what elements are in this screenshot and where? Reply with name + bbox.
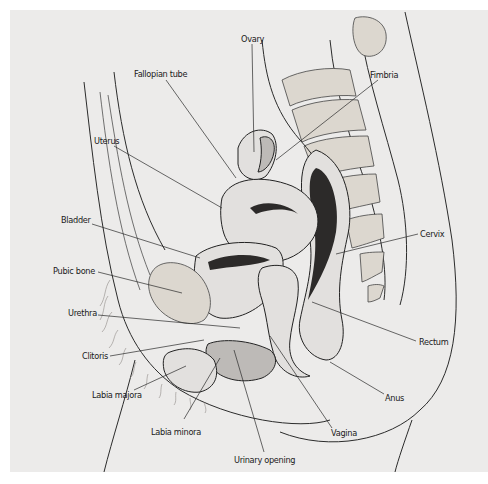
- label-rectum: Rectum: [419, 337, 449, 347]
- label-pubic-bone: Pubic bone: [53, 266, 95, 276]
- label-clitoris: Clitoris: [82, 351, 108, 361]
- label-ovary: Ovary: [241, 34, 264, 44]
- label-anus: Anus: [385, 393, 404, 403]
- label-labia-majora: Labia majora: [92, 390, 142, 400]
- label-fimbria: Fimbria: [370, 70, 398, 80]
- label-vagina: Vagina: [331, 428, 357, 438]
- label-labia-minora: Labia minora: [151, 427, 201, 437]
- label-urinary-opening: Urinary opening: [234, 455, 295, 465]
- label-urethra: Urethra: [68, 308, 97, 318]
- label-uterus: Uterus: [94, 136, 119, 146]
- anatomy-diagram: Ovary Fallopian tube Fimbria Uterus Blad…: [0, 0, 488, 484]
- label-fallopian-tube: Fallopian tube: [134, 69, 188, 79]
- label-cervix: Cervix: [420, 229, 445, 239]
- label-bladder: Bladder: [61, 215, 92, 225]
